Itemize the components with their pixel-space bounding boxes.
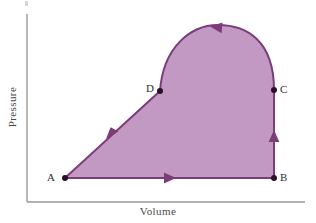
point-a-dot — [62, 175, 68, 181]
point-d-dot — [157, 88, 163, 94]
cycle-shaded-region — [65, 25, 274, 178]
point-label-a: A — [47, 171, 55, 183]
point-label-c: C — [280, 83, 287, 95]
point-label-d: D — [146, 82, 154, 94]
x-axis-label: Volume — [0, 205, 316, 217]
figure-canvas: A B C D Volume Pressure — [0, 0, 316, 223]
pv-cycle-plot — [0, 0, 316, 223]
point-label-b: B — [280, 171, 287, 183]
y-axis-label: Pressure — [6, 77, 18, 137]
point-c-dot — [271, 87, 277, 93]
point-b-dot — [271, 175, 277, 181]
